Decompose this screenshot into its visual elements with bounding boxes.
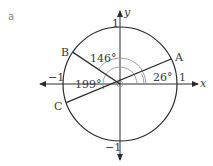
point-B-label: B bbox=[61, 46, 69, 59]
point-A-label: A bbox=[174, 51, 184, 64]
angle-label-199: 199° bbox=[75, 78, 102, 91]
x-tick-1: 1 bbox=[179, 71, 186, 84]
y-tick-1: 1 bbox=[112, 17, 119, 30]
arc-26 bbox=[142, 74, 144, 85]
x-tick-neg1: −1 bbox=[48, 71, 64, 84]
y-axis-label: y bbox=[123, 6, 131, 19]
y-tick-neg1: −1 bbox=[105, 141, 121, 154]
part-label: a bbox=[8, 11, 14, 22]
point-C-label: C bbox=[54, 100, 62, 113]
unit-circle-diagram: a A B C 26° 146° 199° 1 −1 1 −1 x y bbox=[0, 0, 213, 166]
x-axis-label: x bbox=[200, 77, 207, 90]
angle-label-26: 26° bbox=[153, 71, 173, 84]
angle-label-146: 146° bbox=[90, 52, 117, 65]
